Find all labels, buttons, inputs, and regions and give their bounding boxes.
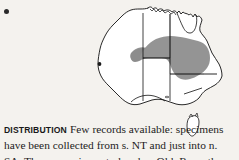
distribution-caption: DISTRIBUTIONFew records available: speci…	[4, 4, 235, 160]
distribution-figure-panel: DISTRIBUTIONFew records available: speci…	[0, 0, 239, 160]
map-text-wrap-shim	[84, 4, 235, 122]
bullet-icon	[4, 9, 9, 14]
distribution-heading: DISTRIBUTION	[4, 125, 67, 135]
